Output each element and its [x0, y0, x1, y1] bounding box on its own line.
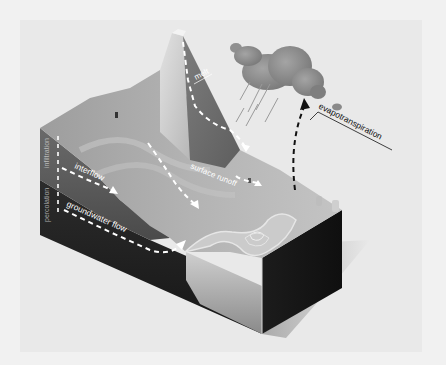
- arrow-head: [300, 98, 310, 110]
- arrow-head: [241, 144, 250, 152]
- cloud-icon: [230, 43, 342, 111]
- hydrology-diagram: melt surface runoff evapotranspiration i…: [0, 0, 446, 365]
- diagram-stage: melt surface runoff evapotranspiration i…: [0, 0, 446, 365]
- label-infiltration: infiltration: [43, 138, 50, 168]
- mountain-right-face: [183, 36, 240, 168]
- evapotranspiration-arrow: [293, 104, 305, 190]
- tree-icon: [332, 200, 339, 212]
- label-evapotranspiration: evapotranspiration: [317, 101, 384, 142]
- tree-icon: [115, 112, 118, 118]
- label-percolation: percolation: [43, 188, 51, 222]
- tree-icon: [316, 196, 322, 206]
- lake-cross-section: [186, 252, 262, 334]
